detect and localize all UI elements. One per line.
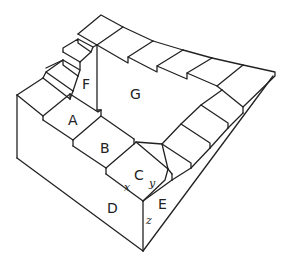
- label-d: D: [107, 200, 118, 216]
- label-y: y: [148, 177, 156, 190]
- penrose-staircase-diagram: A B C D E F G x y z: [0, 0, 285, 264]
- inner-wall: [97, 45, 101, 110]
- label-e: E: [158, 196, 167, 212]
- label-b: B: [100, 140, 110, 156]
- outer-block: [17, 76, 273, 251]
- left-staircase: [17, 15, 168, 201]
- top-staircase: [97, 27, 275, 107]
- label-z: z: [145, 214, 152, 227]
- label-g: G: [130, 86, 141, 102]
- edge-labels: x y z: [124, 177, 156, 227]
- label-c: C: [134, 167, 144, 183]
- label-a: A: [68, 112, 78, 128]
- label-f: F: [82, 76, 90, 92]
- label-x: x: [124, 181, 131, 194]
